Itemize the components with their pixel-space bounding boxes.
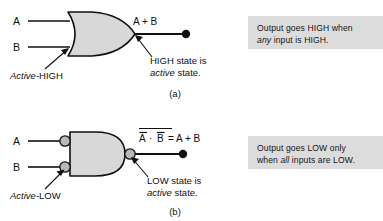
active-high-rest: -HIGH — [36, 70, 63, 81]
callout-a-line2: any input is HIGH. — [257, 35, 374, 47]
output-terminal-dot-b — [179, 150, 187, 158]
active-high-italic: Active — [9, 70, 36, 81]
input-label-a: A — [13, 15, 20, 27]
callout-box-panel-b: Output goes LOW only when all inputs are… — [248, 136, 383, 169]
input-bubble-a-icon — [60, 136, 70, 146]
active-high-annotation: Active-HIGH — [9, 70, 63, 81]
callout-a-italic: any — [257, 35, 271, 45]
expression-term-b: B — [157, 133, 164, 144]
output-bubble-icon — [125, 149, 135, 159]
or-gate-body — [68, 12, 135, 56]
high-state-italic: active — [150, 67, 175, 78]
panel-caption-a: (a) — [169, 88, 181, 99]
low-state-italic: active — [147, 187, 172, 198]
output-terminal-dot-a — [182, 30, 190, 38]
expression-operator-dot: · — [149, 133, 152, 144]
callout-b-pre: when — [257, 155, 280, 165]
low-state-annotation-line1: LOW state is — [147, 175, 202, 186]
high-state-annotation-line1: HIGH state is — [150, 55, 207, 66]
active-low-italic: Active — [9, 190, 36, 201]
callout-a-line1: Output goes HIGH when — [257, 23, 374, 35]
output-expression-b: A · B = A + B — [139, 129, 201, 145]
high-state-rest: state. — [175, 67, 201, 78]
low-state-rest: state. — [172, 187, 198, 198]
callout-b-line1: Output goes LOW only — [257, 143, 374, 155]
input-label-b-b: B — [13, 161, 20, 173]
expression-term-a: A — [139, 133, 146, 144]
expression-equals-part: = A + B — [168, 133, 201, 144]
callout-b-line2: when all inputs are LOW. — [257, 155, 374, 167]
input-label-b: B — [13, 41, 20, 53]
low-state-arrowhead — [131, 157, 139, 164]
nand-gate-body — [70, 132, 125, 176]
low-state-annotation-line2: active state. — [147, 187, 198, 198]
panel-caption-b: (b) — [169, 206, 181, 217]
input-label-a-b: A — [13, 135, 20, 147]
output-expression-a: A + B — [133, 16, 158, 27]
active-low-annotation: Active-LOW — [9, 190, 61, 201]
callout-box-panel-a: Output goes HIGH when any input is HIGH. — [248, 16, 383, 49]
callout-b-rest: inputs are LOW. — [289, 155, 355, 165]
callout-a-rest: input is HIGH. — [271, 35, 328, 45]
callout-b-italic: all — [280, 155, 289, 165]
high-state-arrowhead — [135, 35, 143, 42]
active-low-rest: -LOW — [36, 190, 61, 201]
high-state-annotation-line2: active state. — [150, 67, 201, 78]
panel-b-nand-gate: A B A · B = A + B Active-LOW LOW state i… — [9, 129, 202, 218]
panel-a-or-gate: A B A + B Active-HIGH HIGH state is acti… — [9, 12, 207, 99]
